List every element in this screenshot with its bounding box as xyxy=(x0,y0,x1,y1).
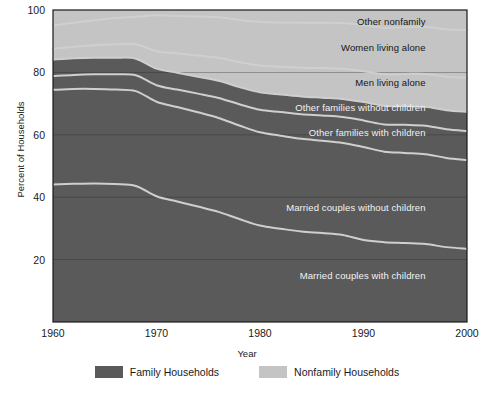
x-tick-label: 1990 xyxy=(334,327,394,339)
series-label: Married couples with children xyxy=(300,270,426,281)
legend-label: Family Households xyxy=(130,366,219,378)
series-label: Married couples without children xyxy=(286,201,425,212)
series-label: Other families with children xyxy=(309,126,426,137)
x-tick-label: 1970 xyxy=(127,327,187,339)
legend-swatch xyxy=(95,366,123,378)
chart-legend: Family HouseholdsNonfamily Households xyxy=(0,366,494,378)
series-label: Women living alone xyxy=(341,42,426,53)
x-axis-title: Year xyxy=(0,348,494,359)
legend-item: Family Households xyxy=(95,366,219,378)
legend-label: Nonfamily Households xyxy=(294,366,399,378)
legend-swatch xyxy=(259,366,287,378)
x-tick-label: 2000 xyxy=(437,327,494,339)
series-label: Other nonfamily xyxy=(357,15,426,26)
chart-container: Percent of Households 20406080100 Other … xyxy=(0,0,494,395)
series-label: Other families without children xyxy=(295,101,425,112)
x-tick-label: 1960 xyxy=(23,327,83,339)
legend-item: Nonfamily Households xyxy=(259,366,399,378)
x-tick-label: 1980 xyxy=(230,327,290,339)
series-label: Men living alone xyxy=(355,76,425,87)
